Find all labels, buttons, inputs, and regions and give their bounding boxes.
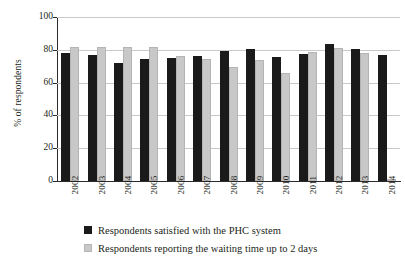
bar-satisfied[interactable]	[246, 49, 255, 181]
y-axis-title-label: % of respondents	[13, 59, 23, 127]
y-axis-tick-label: 60	[44, 77, 54, 87]
bar-group	[374, 17, 400, 181]
bar-group	[83, 17, 109, 181]
plot-area: 020406080100	[57, 17, 400, 181]
bar-waiting-time[interactable]	[281, 73, 290, 181]
bar-satisfied[interactable]	[88, 55, 97, 181]
x-axis-label: 2013	[347, 183, 373, 225]
x-axis-label-text: 2008	[229, 176, 239, 195]
x-axis-label: 2014	[374, 183, 400, 225]
bar-group	[136, 17, 162, 181]
bar-satisfied[interactable]	[220, 51, 229, 181]
legend-item-waiting-time[interactable]: Respondents reporting the waiting time u…	[0, 239, 405, 257]
y-axis-tick-label: 0	[48, 175, 53, 185]
x-axis-label: 2009	[242, 183, 268, 225]
x-axis-label: 2010	[268, 183, 294, 225]
x-axis-label: 2003	[83, 183, 109, 225]
bar-waiting-time[interactable]	[255, 60, 264, 181]
x-axis-label-text: 2013	[360, 176, 370, 195]
bar-waiting-time[interactable]	[360, 53, 369, 181]
x-axis-label-text: 2006	[176, 176, 186, 195]
bar-group	[321, 17, 347, 181]
bar-group	[110, 17, 136, 181]
bar-waiting-time[interactable]	[202, 59, 211, 181]
x-axis-label: 2005	[136, 183, 162, 225]
x-axis-labels: 2002200320042005200620072008200920102011…	[57, 183, 400, 225]
y-axis-tick-label: 20	[44, 142, 54, 152]
bar-waiting-time[interactable]	[308, 52, 317, 181]
legend-swatch-icon-waiting-time	[84, 244, 92, 252]
x-axis-label-text: 2005	[149, 176, 159, 195]
legend-label-satisfied: Respondents satisfied with the PHC syste…	[98, 225, 281, 236]
bar-satisfied[interactable]	[61, 53, 70, 181]
x-axis-label: 2002	[57, 183, 83, 225]
y-axis-title: % of respondents	[10, 0, 26, 185]
y-axis-tick-label: 40	[44, 109, 54, 119]
x-axis-label: 2004	[110, 183, 136, 225]
x-axis-label-text: 2012	[334, 176, 344, 195]
x-axis-label-text: 2007	[202, 176, 212, 195]
x-axis-label: 2012	[321, 183, 347, 225]
bar-satisfied[interactable]	[325, 44, 334, 181]
bar-satisfied[interactable]	[140, 59, 149, 181]
y-axis-tick-label: 100	[39, 11, 53, 21]
x-axis-label-text: 2003	[97, 176, 107, 195]
y-axis-tick	[53, 181, 57, 182]
x-axis-label: 2011	[295, 183, 321, 225]
legend-swatch-icon-satisfied	[84, 226, 92, 234]
bar-satisfied[interactable]	[193, 56, 202, 181]
x-axis-label-text: 2010	[281, 176, 291, 195]
x-axis-label-text: 2011	[308, 176, 318, 194]
x-axis-label-text: 2014	[387, 176, 397, 195]
bar-chart: % of respondents 020406080100 2002200320…	[0, 0, 405, 263]
x-axis-label-text: 2002	[70, 176, 80, 195]
bar-group	[242, 17, 268, 181]
bar-group	[347, 17, 373, 181]
bar-waiting-time[interactable]	[123, 47, 132, 181]
bar-waiting-time[interactable]	[334, 48, 343, 181]
x-axis-label: 2006	[163, 183, 189, 225]
bar-group	[163, 17, 189, 181]
bar-waiting-time[interactable]	[97, 47, 106, 181]
bar-waiting-time[interactable]	[176, 56, 185, 181]
y-axis-tick-label: 80	[44, 44, 54, 54]
bar-group	[215, 17, 241, 181]
x-axis-label-text: 2009	[255, 176, 265, 195]
bar-group	[57, 17, 83, 181]
bar-satisfied[interactable]	[114, 63, 123, 181]
x-axis-label: 2007	[189, 183, 215, 225]
bar-satisfied[interactable]	[351, 49, 360, 181]
legend-item-satisfied[interactable]: Respondents satisfied with the PHC syste…	[0, 221, 405, 239]
bar-group	[189, 17, 215, 181]
legend: Respondents satisfied with the PHC syste…	[0, 221, 405, 257]
bar-satisfied[interactable]	[299, 54, 308, 181]
bar-group	[295, 17, 321, 181]
bar-satisfied[interactable]	[272, 57, 281, 181]
legend-label-waiting-time: Respondents reporting the waiting time u…	[98, 243, 317, 254]
bar-satisfied[interactable]	[167, 58, 176, 181]
bar-satisfied[interactable]	[378, 55, 387, 181]
bar-waiting-time[interactable]	[229, 67, 238, 181]
x-axis-label: 2008	[215, 183, 241, 225]
x-axis-label-text: 2004	[123, 176, 133, 195]
bar-waiting-time[interactable]	[70, 47, 79, 181]
bar-group	[268, 17, 294, 181]
bar-waiting-time[interactable]	[149, 47, 158, 181]
bar-groups	[57, 17, 400, 181]
